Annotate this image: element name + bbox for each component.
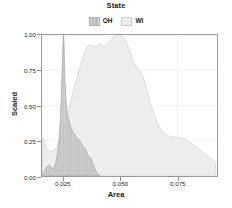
y-tick-label: 0.25 <box>24 138 36 145</box>
plot-area <box>41 34 218 177</box>
legend-items: OH WI <box>89 17 144 26</box>
y-tick-label: 0.75 <box>24 66 36 73</box>
y-tick-mark <box>37 141 41 142</box>
legend-item-wi[interactable]: WI <box>121 17 143 26</box>
legend-swatch-wi-icon <box>121 17 132 26</box>
chart-legend: State OH WI <box>0 2 232 29</box>
y-axis-title: Scaled <box>10 92 19 116</box>
legend-label-wi: WI <box>135 18 143 25</box>
legend-swatch-oh-icon <box>89 17 100 26</box>
x-axis-title: Area <box>0 190 232 199</box>
y-tick-mark <box>37 70 41 71</box>
x-tick-label: 0.075 <box>170 180 185 187</box>
x-tick-label: 0.025 <box>55 180 70 187</box>
y-tick-mark <box>37 34 41 35</box>
y-tick-mark <box>37 177 41 178</box>
density-chart: State OH WI 0.000.250.500.751.00 <box>0 0 232 208</box>
legend-title: State <box>0 2 232 10</box>
plot-canvas <box>42 35 217 176</box>
y-tick-label: 1.00 <box>24 31 36 38</box>
y-tick-label: 0.50 <box>24 102 36 109</box>
legend-label-oh: OH <box>103 18 113 25</box>
legend-item-oh[interactable]: OH <box>89 17 113 26</box>
y-tick-label: 0.00 <box>24 174 36 181</box>
x-tick-label: 0.050 <box>113 180 128 187</box>
y-tick-mark <box>37 106 41 107</box>
